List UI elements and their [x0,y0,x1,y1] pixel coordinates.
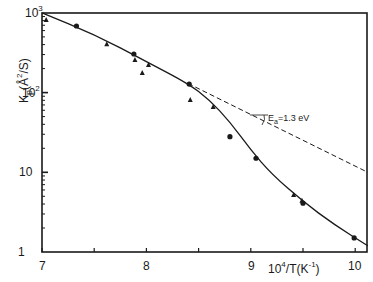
x-axis-title: 104/T(K-1) [268,260,320,276]
x-tick-label-7: 7 [39,259,46,273]
triangle-marker [140,70,145,75]
y-tick-label-10: 10 [19,165,33,179]
triangle-marker [146,62,151,67]
plot-frame [42,13,367,252]
dashed-line [188,84,368,173]
y-tick-label-1: 1 [18,245,25,259]
circle-marker [352,235,357,240]
kp-arrhenius-chart: 103 102 10 1 7 8 9 10 104/T(K-1) Kp(Å2/S… [0,0,373,282]
fit-curve [42,13,368,246]
x-tick-label-10: 10 [348,259,362,273]
x-tick-label-8: 8 [143,259,150,273]
y-tick-label-1000: 103 [25,4,43,20]
extrapolation-line [188,84,368,173]
axis-ticks [42,17,355,252]
circle-marker [187,81,192,86]
x-tick-label-9: 9 [248,259,255,273]
circle-marker [227,134,232,139]
triangle-marker [44,17,49,22]
annotation-text: Ea=1.3 eV [268,113,309,125]
triangle-marker [132,57,137,62]
circle-marker [74,23,79,28]
fit-curve-path [42,13,368,246]
circle-marker [131,51,136,56]
triangle-marker [188,97,193,102]
activation-energy-annotation: Ea=1.3 eV [250,113,309,125]
circle-marker [253,156,258,161]
